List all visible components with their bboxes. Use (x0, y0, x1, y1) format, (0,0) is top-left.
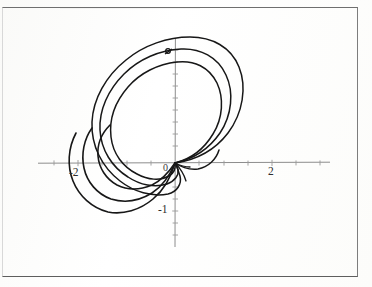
curve-start-marker (165, 49, 172, 54)
x-axis-tick-label-pos2: 2 (268, 165, 274, 177)
curve-tail-inner (98, 125, 175, 189)
figure-page: -2 2 -1 0 (0, 0, 372, 287)
origin-label: 0 (163, 162, 168, 173)
plot-canvas (0, 0, 372, 287)
axes-group (38, 38, 330, 247)
x-axis-tick-label-neg2: -2 (69, 166, 79, 178)
curve-family (69, 37, 243, 213)
x-axis-line (38, 162, 330, 163)
y-axis-tick-label-neg1: -1 (158, 203, 168, 215)
